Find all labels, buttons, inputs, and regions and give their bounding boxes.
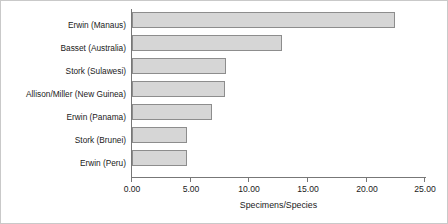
category-label-stork-sulawesi: Stork (Sulawesi): [0, 66, 126, 77]
bar-basset-australia: [132, 35, 282, 51]
x-tick-10: [248, 178, 249, 182]
category-label-erwin-panama: Erwin (Panama): [0, 112, 126, 123]
x-tick-25: [424, 178, 425, 182]
bar-erwin-panama: [132, 104, 212, 120]
x-axis-title: Specimens/Species: [132, 200, 425, 211]
x-tick-0: [131, 178, 132, 182]
bar-stork-brunei: [132, 127, 187, 143]
category-label-allison-miller-new-guinea: Allison/Miller (New Guinea): [0, 89, 126, 100]
bar-chart-figure: Erwin (Manaus) Basset (Australia) Stork …: [0, 0, 448, 224]
x-tick-5: [190, 178, 191, 182]
x-tick-label-10: 10.00: [227, 184, 271, 194]
bar-erwin-peru: [132, 150, 187, 166]
x-tick-label-25: 25.00: [403, 184, 447, 194]
x-tick-label-15: 15.00: [286, 184, 330, 194]
category-label-basset-australia: Basset (Australia): [0, 43, 126, 54]
plot-area: [132, 9, 425, 177]
category-label-stork-brunei: Stork (Brunei): [0, 135, 126, 146]
category-label-erwin-manaus: Erwin (Manaus): [0, 20, 126, 31]
bar-stork-sulawesi: [132, 58, 226, 74]
category-label-erwin-peru: Erwin (Peru): [0, 158, 126, 169]
x-tick-label-5: 5.00: [169, 184, 213, 194]
x-tick-label-0: 0.00: [110, 184, 154, 194]
x-tick-label-20: 20.00: [345, 184, 389, 194]
bar-erwin-manaus: [132, 12, 395, 28]
bar-allison-miller-new-guinea: [132, 81, 225, 97]
x-tick-15: [307, 178, 308, 182]
value-axis-line: [131, 177, 426, 178]
x-tick-20: [366, 178, 367, 182]
category-axis-labels: Erwin (Manaus) Basset (Australia) Stork …: [1, 9, 129, 177]
